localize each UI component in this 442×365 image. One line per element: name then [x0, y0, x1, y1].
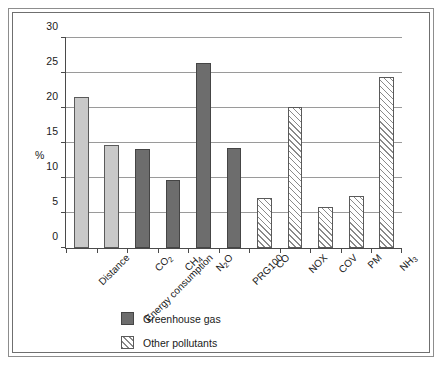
bar-cov [318, 207, 333, 248]
y-tick-label-5: 5 [52, 195, 58, 207]
bar-series [66, 38, 402, 248]
bar-slot [310, 38, 341, 248]
x-tick [310, 248, 311, 253]
x-axis-label-cov: COV [337, 252, 360, 275]
bar-prg100 [227, 148, 242, 248]
bar-ch4 [166, 180, 181, 248]
x-tick [66, 248, 67, 253]
bar-nh3 [379, 77, 394, 249]
x-tick [280, 248, 281, 253]
chart-frame-inner: % 051015202530 DistanceEnergy consumptio… [12, 12, 430, 353]
bar-slot [158, 38, 189, 248]
bar-slot [188, 38, 219, 248]
x-tick [249, 248, 250, 253]
bar-nox [288, 107, 303, 248]
x-tick [219, 248, 220, 253]
legend-item: Greenhouse gas [121, 312, 221, 325]
y-tick-label-25: 25 [46, 55, 58, 67]
chart-legend: Greenhouse gasOther pollutants [121, 312, 221, 360]
x-tick [341, 248, 342, 253]
bar-slot [341, 38, 372, 248]
y-axis-title: % [35, 149, 44, 161]
bar-slot [249, 38, 280, 248]
legend-item: Other pollutants [121, 336, 221, 349]
bar-slot [97, 38, 128, 248]
bar-slot [280, 38, 311, 248]
y-tick-label-30: 30 [46, 20, 58, 32]
bar-co [257, 198, 272, 248]
x-axis-label-nh3: NH3 [397, 252, 418, 273]
x-axis-label-distance: Distance [97, 252, 132, 287]
bar-pm [349, 196, 364, 248]
chart-frame-outer: % 051015202530 DistanceEnergy consumptio… [8, 8, 434, 357]
x-axis-label-co2: CO2 [152, 252, 173, 273]
x-tick [158, 248, 159, 253]
legend-label: Greenhouse gas [143, 313, 221, 325]
bar-slot [127, 38, 158, 248]
y-tick-label-15: 15 [46, 125, 58, 137]
plot-area: 051015202530 [65, 38, 402, 249]
x-tick [188, 248, 189, 253]
bar-slot [219, 38, 250, 248]
x-tick [97, 248, 98, 253]
x-tick [371, 248, 372, 253]
bar-energy-consumption [104, 145, 119, 248]
y-tick-label-0: 0 [52, 230, 58, 242]
y-tick-label-20: 20 [46, 90, 58, 102]
x-axis-label-n2o: N2O [213, 252, 234, 273]
x-tick [127, 248, 128, 253]
legend-swatch-hatch [121, 336, 134, 349]
bar-distance [74, 97, 89, 248]
legend-swatch-dark [121, 312, 134, 325]
x-tick [401, 248, 402, 253]
y-tick-label-10: 10 [46, 160, 58, 172]
x-axis-label-nox: NOX [306, 252, 329, 275]
bar-slot [371, 38, 402, 248]
legend-label: Other pollutants [143, 337, 217, 349]
bar-co2 [135, 149, 150, 248]
bar-n2o [196, 63, 211, 249]
x-axis-label-pm: PM [365, 252, 383, 270]
bar-slot [66, 38, 97, 248]
